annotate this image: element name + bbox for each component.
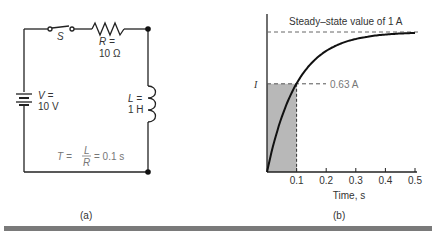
source-label-line1: V = bbox=[38, 90, 53, 101]
x-tick-label: 0.2 bbox=[319, 175, 333, 186]
formula-T: T = bbox=[57, 151, 72, 162]
x-tick-label: 0.4 bbox=[378, 175, 392, 186]
resistor-label-line2: 10 Ω bbox=[99, 48, 121, 59]
time-constant-formula: T = L R = 0.1 s bbox=[57, 145, 124, 168]
formula-denominator: R bbox=[83, 157, 90, 168]
x-tick-label: 0.5 bbox=[408, 175, 422, 186]
x-tick-label: 0.3 bbox=[349, 175, 363, 186]
inductor-label-line1: L = bbox=[128, 93, 142, 104]
caption-a: (a) bbox=[80, 210, 92, 221]
switch-blade bbox=[52, 26, 69, 28]
formula-numerator: L bbox=[84, 145, 90, 156]
formula-value: = 0.1 s bbox=[94, 151, 124, 162]
switch-label: S bbox=[57, 31, 64, 42]
y-axis-label: I bbox=[253, 79, 258, 90]
tau-level-label: 0.63 A bbox=[330, 79, 359, 90]
bottom-divider-bar bbox=[4, 226, 432, 231]
figure: S R = 10 Ω V = 10 V L = 1 H T = L R = 0.… bbox=[0, 0, 438, 240]
inductor-label-line2: 1 H bbox=[128, 104, 144, 115]
switch-terminal-right bbox=[70, 27, 74, 31]
caption-b: (b) bbox=[333, 210, 345, 221]
x-tick-label: 0.1 bbox=[290, 175, 304, 186]
shaded-area bbox=[267, 84, 297, 172]
junction-bottom-right bbox=[145, 169, 151, 175]
source-label-line2: 10 V bbox=[38, 101, 59, 112]
x-axis-label: Time, s bbox=[333, 190, 365, 201]
inductor-coil bbox=[148, 86, 156, 122]
steady-state-label: Steady–state value of 1 A bbox=[289, 16, 403, 27]
resistor-label-line1: R = bbox=[99, 36, 115, 47]
current-rise-chart: 0.10.20.30.40.5Time, sISteady–state valu… bbox=[253, 14, 422, 201]
switch-terminal-left bbox=[48, 27, 52, 31]
junction-top-right bbox=[145, 26, 151, 32]
resistor bbox=[92, 23, 124, 35]
